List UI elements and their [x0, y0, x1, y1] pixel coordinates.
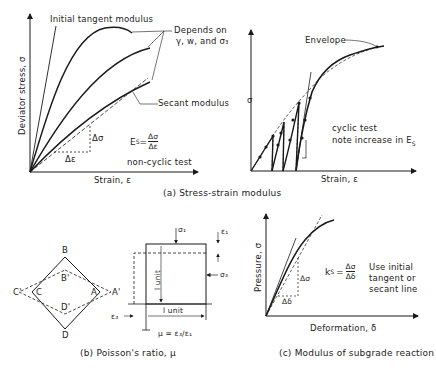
non-cyclic-note: non-cyclic test [127, 158, 192, 167]
eps1-label: ε₁ [221, 228, 228, 236]
point-A-prime: A' [112, 288, 121, 297]
deformation-axis-label: Deformation, δ [310, 324, 377, 333]
panel-a-right-chart [251, 30, 416, 171]
formula-numerator: Δσ [346, 262, 356, 272]
point-B-prime: B' [61, 274, 70, 283]
delta-eps-label: Δε [65, 155, 76, 164]
caption-a: (a) Stress-strain modulus [163, 189, 281, 198]
deformed-outline [134, 253, 206, 304]
point-C-prime: C' [13, 288, 22, 297]
sigma1-label: σ₁ [178, 226, 186, 234]
formula-denominator: Δε [148, 142, 157, 151]
formula-denominator: Δδ [346, 272, 356, 281]
delta-delta-label: Δδ [282, 298, 292, 306]
formula-sub: S [330, 268, 334, 275]
envelope-leader [344, 40, 377, 47]
point-B: B [62, 246, 68, 255]
sigma3-label: σ₃ [220, 271, 228, 279]
right-x-axis-label: Strain, ε [321, 175, 358, 184]
unit-vertical-label: l unit [154, 270, 162, 290]
initial-tangent-label: Initial tangent modulus [50, 15, 153, 24]
note-line3: secant line [369, 285, 418, 294]
cyclic-note-sub: S [412, 140, 416, 147]
original-diamond [32, 257, 100, 329]
cyclic-note-text: note increase in E [332, 135, 412, 145]
depends-label-line1: Depends on [174, 26, 227, 35]
depends-leader [132, 31, 172, 32]
y-axis-label: Deviator stress, σ [18, 56, 27, 135]
point-A: A [91, 288, 97, 297]
pressure-curve [266, 220, 334, 316]
figure-drawing [0, 0, 436, 372]
panel-b-diamond [19, 257, 111, 329]
point-C: C [36, 288, 42, 297]
panel-a-left-chart [30, 14, 198, 172]
poisson-formula: μ = ε₃/ε₁ [158, 330, 192, 338]
caption-b: (b) Poisson's ratio, μ [80, 349, 176, 358]
pressure-axis-label: Pressure, σ [254, 243, 263, 292]
secant-modulus-label: Secant modulus [158, 99, 229, 108]
formula-numerator: Δσ [148, 132, 158, 142]
delta-sigma-label: Δσ [300, 275, 310, 283]
unit-horizontal-label: l unit [163, 307, 183, 315]
subgrade-formula: kS= Δσ Δδ [325, 262, 355, 281]
delta-sigma-label: Δσ [92, 134, 104, 143]
eps3-label: ε₃ [111, 313, 118, 321]
caption-c: (c) Modulus of subgrade reaction [279, 349, 434, 358]
cyclic-note-line2: note increase in ES [332, 136, 416, 147]
cyclic-note-line1: cyclic test [332, 124, 377, 133]
point-D-prime: D' [61, 303, 70, 312]
right-y-axis-label: σ [247, 96, 253, 105]
secant-leader [133, 92, 158, 104]
note-line1: Use initial [369, 263, 413, 272]
load-cycle-4 [296, 46, 384, 171]
envelope-curve [251, 46, 384, 171]
x-axis-label: Strain, ε [94, 176, 131, 185]
secant-formula: ES= Δσ Δε [130, 132, 158, 151]
point-D: D [62, 331, 69, 340]
depends-label-line2: γ, w, and σ₃ [176, 37, 229, 46]
load-cycle-1 [251, 136, 273, 171]
note-line2: tangent or [369, 274, 416, 283]
envelope-label: Envelope [305, 36, 346, 45]
